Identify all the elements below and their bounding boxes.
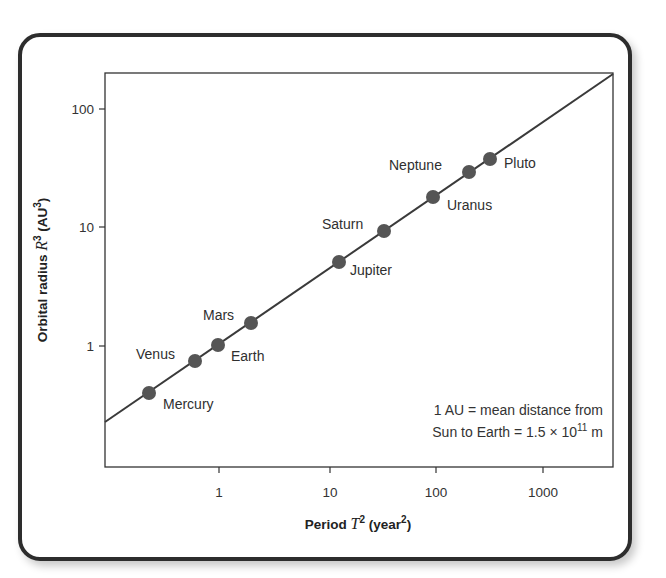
label-saturn: Saturn	[322, 216, 363, 232]
point-pluto	[483, 152, 497, 166]
point-venus	[188, 354, 202, 368]
point-mercury	[142, 386, 156, 400]
label-mars: Mars	[203, 307, 234, 323]
fit-line	[105, 74, 613, 422]
label-venus: Venus	[136, 346, 175, 362]
note-line-2: Sun to Earth = 1.5 × 1011 m	[432, 422, 603, 440]
label-neptune: Neptune	[389, 157, 442, 173]
x-tick-100: 100	[425, 485, 448, 500]
x-axis-title: Period T2 (year2)	[305, 514, 411, 532]
x-axis: 1 10 100 1000	[215, 467, 558, 500]
label-pluto: Pluto	[504, 155, 536, 171]
x-tick-10: 10	[322, 485, 337, 500]
label-jupiter: Jupiter	[350, 262, 392, 278]
point-earth	[211, 338, 225, 352]
y-axis-title: Orbital radius R3 (AU3)	[32, 198, 50, 343]
point-jupiter	[332, 255, 346, 269]
point-uranus	[426, 190, 440, 204]
chart-plot: 100 10 1 1 10 100 1000 Mercury Venus Ear…	[0, 0, 666, 578]
x-tick-1: 1	[215, 485, 223, 500]
label-mercury: Mercury	[163, 396, 214, 412]
label-earth: Earth	[231, 348, 264, 364]
y-tick-100: 100	[71, 102, 94, 117]
point-neptune	[462, 165, 476, 179]
note-line-1: 1 AU = mean distance from	[434, 402, 603, 418]
label-uranus: Uranus	[447, 197, 492, 213]
x-tick-1000: 1000	[528, 485, 558, 500]
y-tick-10: 10	[79, 220, 94, 235]
point-saturn	[377, 224, 391, 238]
y-tick-1: 1	[86, 339, 94, 354]
point-mars	[244, 316, 258, 330]
y-axis: 100 10 1	[71, 102, 105, 354]
